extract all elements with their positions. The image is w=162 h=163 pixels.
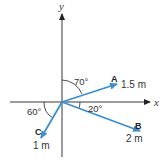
vector-magnitude-c: 1 m (33, 140, 50, 151)
x-axis-label: x (153, 96, 159, 108)
vector-name-b: B (135, 121, 142, 131)
vector-magnitude-a: 1.5 m (121, 79, 146, 90)
angle-arc-c (44, 102, 53, 118)
vector-name-a: A (111, 74, 118, 84)
vector-diagram: x y 70° 20° 60° A 1.5 m B 2 m C 1 m (0, 0, 162, 163)
vector-c (41, 102, 62, 138)
angle-label-c: 60° (27, 106, 42, 117)
angle-label-b: 20° (88, 103, 103, 114)
angle-label-a: 70° (74, 76, 89, 87)
vector-a (62, 84, 117, 102)
vector-name-c: C (35, 127, 42, 137)
angle-arc-b (79, 102, 80, 108)
y-axis-label: y (58, 0, 64, 12)
vector-magnitude-b: 2 m (126, 133, 143, 144)
